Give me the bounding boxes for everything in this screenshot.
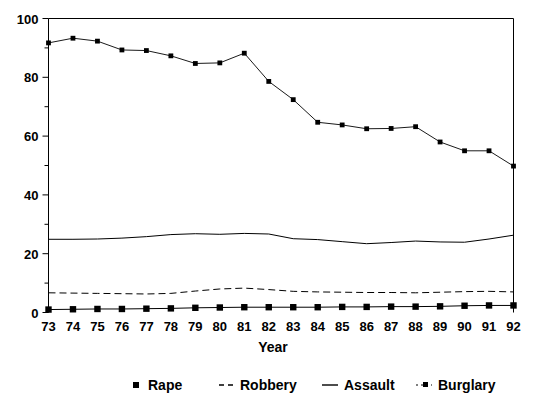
x-axis-tick-label: 90	[457, 319, 471, 334]
data-point-marker	[364, 126, 369, 131]
data-point-marker	[437, 303, 443, 309]
legend-label: Rape	[148, 377, 182, 393]
data-point-marker	[315, 304, 321, 310]
y-axis-tick-label: 100	[17, 12, 39, 27]
data-point-marker	[438, 140, 443, 145]
data-point-marker	[192, 305, 198, 311]
x-axis-tick-label: 83	[286, 319, 300, 334]
data-point-marker	[143, 305, 149, 311]
data-point-marker	[242, 51, 247, 56]
series-line-burglary	[49, 38, 514, 166]
data-point-marker	[461, 303, 467, 309]
data-point-marker	[144, 48, 149, 53]
x-axis-title: Year	[258, 339, 288, 355]
legend-dot-marker-icon	[423, 382, 428, 387]
x-axis-tick-label: 92	[506, 319, 520, 334]
data-point-marker	[94, 306, 100, 312]
data-point-marker	[510, 302, 516, 308]
x-axis-tick-label: 84	[310, 319, 325, 334]
x-axis-tick-label: 75	[90, 319, 104, 334]
x-axis-tick-label: 91	[482, 319, 496, 334]
x-axis-tick-label: 77	[139, 319, 153, 334]
data-point-marker	[511, 164, 516, 169]
x-axis-tick-label: 80	[213, 319, 227, 334]
legend-label: Assault	[344, 377, 395, 393]
y-axis-tick-label: 0	[31, 306, 38, 321]
crime-rate-line-chart: 020406080100 737475767778798081828384858…	[0, 0, 547, 414]
data-point-marker	[413, 124, 418, 129]
data-point-marker	[412, 303, 418, 309]
x-axis-tick-label: 79	[188, 319, 202, 334]
data-point-marker	[168, 53, 173, 58]
data-point-marker	[45, 306, 51, 312]
data-point-marker	[46, 41, 51, 46]
x-axis-tick-label: 86	[359, 319, 373, 334]
series-rape	[45, 302, 516, 313]
data-series-group	[45, 36, 516, 313]
data-point-marker	[95, 39, 100, 44]
series-burglary	[46, 36, 516, 169]
data-point-marker	[266, 79, 271, 84]
plot-frame-border	[49, 19, 514, 313]
data-point-marker	[119, 306, 125, 312]
data-point-marker	[340, 123, 345, 128]
data-point-marker	[290, 304, 296, 310]
x-axis-tick-labels: 7374757677787980818283848586878889909192	[41, 319, 520, 334]
x-axis-tick-label: 74	[66, 319, 81, 334]
data-point-marker	[120, 48, 125, 53]
x-axis-tick-label: 73	[41, 319, 55, 334]
series-line-assault	[49, 233, 514, 243]
data-point-marker	[291, 97, 296, 102]
data-point-marker	[241, 304, 247, 310]
legend-label: Robbery	[240, 377, 297, 393]
data-point-marker	[363, 304, 369, 310]
data-point-marker	[217, 60, 222, 65]
data-point-marker	[70, 306, 76, 312]
data-point-marker	[193, 61, 198, 66]
y-axis-tick-label: 80	[24, 70, 38, 85]
y-axis-tick-label: 20	[24, 247, 38, 262]
x-axis-tick-label: 76	[115, 319, 129, 334]
legend-item-assault[interactable]: Assault	[322, 377, 395, 393]
series-assault	[49, 233, 514, 243]
series-line-robbery	[49, 288, 514, 294]
x-axis-tick-label: 78	[164, 319, 178, 334]
data-point-marker	[71, 36, 76, 41]
y-axis-tick-labels: 020406080100	[17, 12, 39, 321]
x-axis-tick-label: 87	[384, 319, 398, 334]
x-axis-tick-label: 89	[433, 319, 447, 334]
data-point-marker	[388, 303, 394, 309]
legend-item-burglary[interactable]: Burglary	[416, 377, 496, 393]
y-axis-tick-label: 40	[24, 188, 38, 203]
data-point-marker	[389, 126, 394, 131]
data-point-marker	[266, 304, 272, 310]
chart-canvas: 020406080100 737475767778798081828384858…	[0, 0, 547, 414]
legend-label: Burglary	[438, 377, 496, 393]
data-point-marker	[217, 304, 223, 310]
x-axis-tick-label: 85	[335, 319, 349, 334]
chart-legend: RapeRobberyAssaultBurglary	[133, 377, 496, 393]
data-point-marker	[339, 304, 345, 310]
data-point-marker	[486, 302, 492, 308]
legend-item-robbery[interactable]: Robbery	[219, 377, 297, 393]
x-axis-tick-label: 82	[262, 319, 276, 334]
plot-frame	[49, 19, 514, 313]
x-axis-tick-label: 81	[237, 319, 251, 334]
legend-item-rape[interactable]: Rape	[133, 377, 182, 393]
series-robbery	[49, 288, 514, 294]
data-point-marker	[168, 305, 174, 311]
data-point-marker	[462, 148, 467, 153]
data-point-marker	[487, 148, 492, 153]
data-point-marker	[315, 120, 320, 125]
series-line-rape	[49, 305, 514, 309]
y-axis-tick-label: 60	[24, 129, 38, 144]
x-axis-tick-label: 88	[408, 319, 422, 334]
y-axis-ticks	[43, 19, 49, 313]
legend-square-marker-icon	[133, 382, 139, 388]
